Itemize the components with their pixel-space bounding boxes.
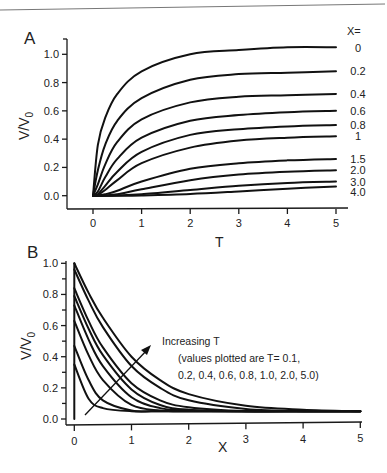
panel-a-curve-x-0	[93, 47, 336, 196]
panel-b-y-axis-label: V/V0	[18, 331, 37, 360]
panel-a-y-tick-label: 1.0	[44, 48, 59, 60]
panel-b-x-tick-label: 0	[71, 435, 77, 447]
annotation-line-1: Increasing T	[162, 335, 220, 347]
panel-a-x-tick-label: 2	[187, 217, 193, 229]
panel-b-x-tick-label: 2	[186, 434, 192, 446]
panel-b: B V/V0 X 0.00.20.40.60.81.0012345 Increa…	[18, 243, 363, 455]
legend-label-x-0.4: 0.4	[350, 88, 365, 100]
legend-title: X=	[347, 25, 361, 37]
annotation-line-2: (values plotted are T= 0.1,	[178, 352, 300, 364]
panel-a-y-tick-label: 0.6	[44, 105, 59, 117]
legend-label-x-0.2: 0.2	[350, 65, 365, 77]
panel-b-x-tick-label: 3	[243, 433, 249, 445]
legend-label-x-0.8: 0.8	[350, 119, 365, 131]
panel-b-x-tick-label: 5	[357, 432, 363, 444]
panel-a-x-axis-label: T	[215, 234, 224, 250]
panel-b-x-tick-label: 4	[300, 433, 306, 445]
panel-a-x-tick-label: 5	[333, 217, 339, 229]
panel-b-x-axis-label: X	[218, 439, 228, 455]
panel-a-x-tick-label: 0	[90, 217, 96, 229]
legend-label-x-0: 0	[355, 42, 361, 54]
legend-label-x-1.5: 1.5	[350, 153, 365, 165]
panel-a-label: A	[24, 29, 36, 48]
annotation-line-3: 0.2, 0.4, 0.6, 0.8, 1.0, 2.0, 5.0)	[178, 369, 319, 381]
figure: A V/V0 T X= 0.00.20.40.60.81.0012345 00.…	[0, 0, 387, 473]
panel-a-y-tick-label: 0.4	[44, 133, 59, 145]
panel-a: A V/V0 T X= 0.00.20.40.60.81.0012345 00.…	[16, 25, 366, 250]
legend-label-x-2.0: 2.0	[350, 164, 365, 176]
panel-b-x-tick-label: 1	[128, 434, 134, 446]
increasing-t-arrow	[85, 349, 148, 415]
panel-b-y-tick-label: 0.6	[43, 320, 58, 332]
panel-b-label: B	[27, 243, 38, 262]
panel-b-y-tick-label: 0.8	[43, 288, 58, 300]
panel-a-x-tick-label: 1	[139, 217, 145, 229]
panel-a-y-tick-label: 0.2	[44, 161, 59, 173]
panel-b-y-tick-label: 0.4	[43, 351, 58, 363]
panel-b-y-tick-label: 0.0	[43, 413, 58, 425]
panel-a-curve-x-0.4	[93, 94, 336, 196]
legend-label-x-1: 1	[355, 130, 361, 142]
panel-a-y-tick-label: 0.0	[44, 190, 59, 202]
legend-label-x-4.0: 4.0	[350, 186, 365, 198]
panel-a-x-tick-label: 3	[236, 217, 242, 229]
panel-b-curve-T-1-0	[74, 288, 360, 411]
panel-b-y-tick-label: 0.2	[43, 382, 58, 394]
panel-b-x-axis	[66, 422, 362, 425]
panel-a-x-tick-label: 4	[284, 217, 290, 229]
arrow-head	[141, 345, 151, 355]
panel-a-x-axis	[67, 208, 348, 209]
top-rule	[0, 4, 385, 10]
legend-label-x-0.6: 0.6	[350, 105, 365, 117]
panel-a-y-tick-label: 0.8	[44, 77, 59, 89]
panel-b-y-tick-label: 1.0	[43, 257, 58, 269]
panel-a-y-axis-label: V/V0	[16, 111, 35, 140]
